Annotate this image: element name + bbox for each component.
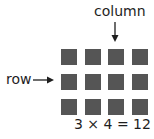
grid-square bbox=[61, 74, 77, 90]
grid-square bbox=[132, 49, 148, 65]
grid-square bbox=[85, 99, 101, 115]
row-label: row bbox=[6, 72, 31, 86]
grid-square bbox=[85, 74, 101, 90]
grid-square bbox=[132, 74, 148, 90]
grid-square bbox=[61, 99, 77, 115]
grid-square bbox=[132, 99, 148, 115]
down-arrow-icon bbox=[110, 22, 120, 43]
right-arrow-icon bbox=[33, 75, 55, 85]
grid-square bbox=[108, 74, 124, 90]
grid-square bbox=[85, 49, 101, 65]
grid-square bbox=[108, 99, 124, 115]
grid-square bbox=[61, 49, 77, 65]
grid-square bbox=[108, 49, 124, 65]
equation: 3 × 4 = 12 bbox=[74, 117, 151, 131]
column-label: column bbox=[94, 4, 146, 18]
